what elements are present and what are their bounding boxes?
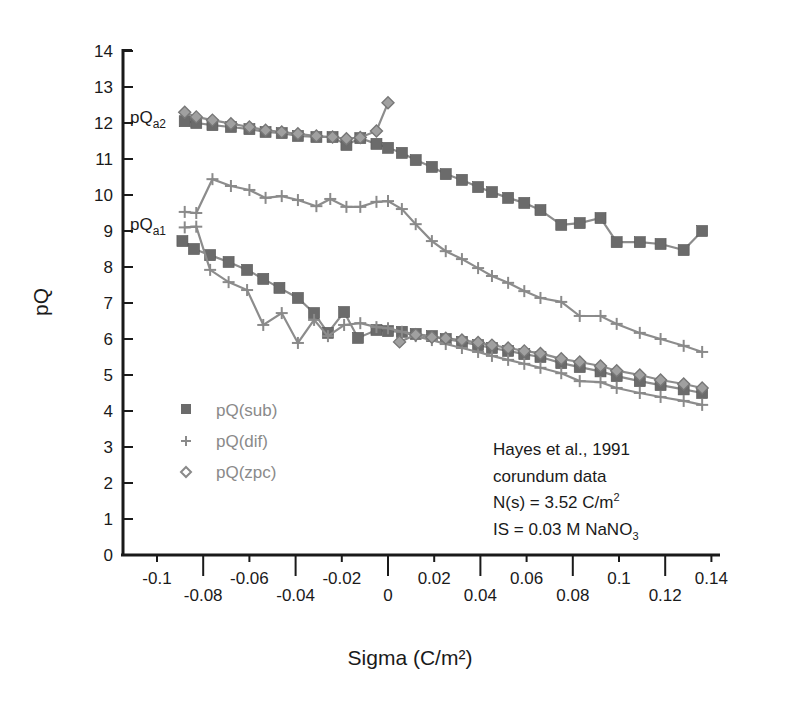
square-marker-icon [258, 273, 269, 284]
square-marker-icon [535, 205, 546, 216]
series-pqsub-a2 [179, 116, 707, 256]
y-tick-label: 14 [94, 42, 113, 61]
plus-marker-icon [595, 310, 607, 322]
square-marker-icon [274, 282, 285, 293]
x-tick-label: -0.02 [322, 569, 361, 588]
plus-marker-icon [370, 196, 382, 208]
x-tick-label: 0.02 [418, 569, 451, 588]
x-tick-label: 0.1 [607, 569, 631, 588]
y-tick-label: 2 [104, 474, 113, 493]
plus-marker-icon [534, 292, 546, 304]
plus-marker-icon [678, 340, 690, 352]
plus-marker-icon [634, 327, 646, 339]
square-marker-icon [697, 226, 708, 237]
y-axis-title: pQ [29, 288, 52, 316]
x-tick-label: 0.06 [510, 569, 543, 588]
plus-marker-icon [634, 387, 646, 399]
legend-label-zpc: pQ(zpc) [216, 463, 276, 482]
square-marker-icon [473, 182, 484, 193]
plus-marker-icon [534, 362, 546, 374]
x-tick-label: -0.08 [184, 586, 223, 605]
square-marker-icon [383, 142, 394, 153]
x-tick-label: 0.14 [695, 569, 728, 588]
plus-marker-icon [696, 399, 708, 411]
square-marker-icon [456, 174, 467, 185]
plus-marker-icon [354, 201, 366, 213]
y-tick-label: 13 [94, 78, 113, 97]
y-tick-label: 6 [104, 330, 113, 349]
legend: pQ(sub) pQ(dif) pQ(zpc) [181, 401, 277, 482]
annotation-line-1: Hayes et al., 1991 [493, 440, 630, 459]
square-marker-icon [678, 245, 689, 256]
square-marker-icon [634, 237, 645, 248]
curve-label-pqa1: pQa1 [130, 215, 166, 238]
square-marker-icon [223, 256, 234, 267]
plus-marker-icon [204, 264, 216, 276]
y-tick-label: 12 [94, 114, 113, 133]
plus-marker-icon [340, 201, 352, 213]
plus-marker-icon [611, 318, 623, 330]
x-axis-title: Sigma (C/m²) [348, 646, 473, 669]
annotation-box: Hayes et al., 1991 corundum data N(s) = … [493, 440, 639, 542]
y-tick-label: 11 [95, 150, 113, 169]
x-tick-label: 0.04 [464, 586, 497, 605]
plus-marker-icon [179, 206, 191, 218]
plus-marker-icon [678, 395, 690, 407]
plus-marker-icon [257, 319, 269, 331]
square-marker-icon [503, 192, 514, 203]
square-marker-icon [595, 213, 606, 224]
x-tick-label: 0.12 [649, 586, 682, 605]
plus-marker-icon [472, 262, 484, 274]
y-tick-label: 1 [104, 510, 113, 529]
x-tick-label: -0.1 [142, 569, 171, 588]
y-tick-label: 7 [104, 294, 113, 313]
square-marker-icon [519, 197, 530, 208]
plus-marker-icon [206, 173, 218, 185]
plus-marker-icon [223, 276, 235, 288]
square-marker-icon [426, 161, 437, 172]
y-tick-label: 9 [104, 222, 113, 241]
plus-marker-icon [555, 367, 567, 379]
square-marker-icon [410, 155, 421, 166]
plus-marker-icon [611, 382, 623, 394]
square-marker-icon [177, 236, 188, 247]
annotation-line-2: corundum data [493, 467, 607, 486]
plus-marker-icon [243, 184, 255, 196]
plus-marker-icon [292, 194, 304, 206]
diamond-marker-icon [370, 125, 382, 137]
square-marker-icon [396, 147, 407, 158]
plus-marker-icon [655, 391, 667, 403]
legend-plus-icon [181, 436, 191, 446]
legend-label-sub: pQ(sub) [216, 401, 277, 420]
square-marker-icon [486, 187, 497, 198]
square-marker-icon [339, 307, 350, 318]
square-marker-icon [371, 138, 382, 149]
annotation-line-3: N(s) = 3.52 C/m2 [493, 491, 620, 512]
square-marker-icon [574, 218, 585, 229]
square-marker-icon [352, 332, 363, 343]
x-tick-label: 0.08 [556, 586, 589, 605]
x-tick-label: 0 [383, 586, 392, 605]
series-pqsub-a1 [177, 236, 708, 399]
curve-label-pqa2: pQa2 [130, 108, 166, 131]
square-marker-icon [292, 292, 303, 303]
x-tick-label: -0.04 [276, 586, 315, 605]
diamond-marker-icon [394, 336, 406, 348]
square-marker-icon [655, 238, 666, 249]
plus-marker-icon [354, 317, 366, 329]
plus-marker-icon [260, 192, 272, 204]
legend-square-icon [181, 404, 191, 414]
legend-diamond-icon [181, 467, 191, 477]
plus-marker-icon [276, 190, 288, 202]
y-tick-label: 0 [104, 546, 113, 565]
plus-marker-icon [696, 346, 708, 358]
square-marker-icon [242, 264, 253, 275]
plus-marker-icon [574, 375, 586, 387]
plus-marker-icon [276, 307, 288, 319]
plus-marker-icon [382, 195, 394, 207]
square-marker-icon [440, 169, 451, 180]
plus-marker-icon [241, 284, 253, 296]
x-tick-label: -0.06 [230, 569, 269, 588]
square-marker-icon [188, 244, 199, 255]
legend-label-dif: pQ(dif) [216, 432, 268, 451]
